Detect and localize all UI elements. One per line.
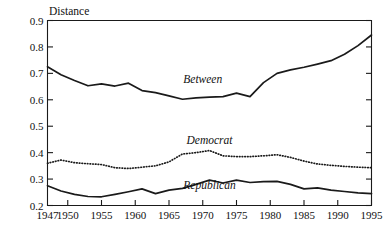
series-line-between (48, 35, 372, 99)
x-tick-label: 1995 (361, 209, 384, 221)
y-tick-label: 0.4 (30, 147, 44, 159)
x-tick-label: 1950 (57, 209, 80, 221)
x-axis-tick-labels: 1947195019551960196519701975198019851990… (37, 209, 384, 221)
x-tick-label: 1955 (91, 209, 114, 221)
plot-frame (48, 21, 372, 206)
y-tick-label: 0.5 (30, 120, 44, 132)
y-axis-ticks (48, 21, 372, 206)
distance-line-chart: 0.20.30.40.50.60.70.80.9 194719501955196… (0, 0, 390, 237)
y-axis-title: Distance (49, 5, 89, 17)
y-tick-label: 0.8 (30, 41, 44, 53)
y-tick-label: 0.3 (30, 173, 44, 185)
series-label-democrat: Democrat (186, 134, 234, 146)
y-tick-label: 0.6 (30, 94, 44, 106)
x-tick-label: 1965 (158, 209, 181, 221)
series-line-democrat (48, 151, 372, 169)
x-tick-label: 1985 (293, 209, 316, 221)
axis-frame (48, 21, 372, 206)
x-tick-label: 1960 (124, 209, 147, 221)
x-tick-label: 1980 (259, 209, 282, 221)
series-label-between: Between (183, 73, 222, 85)
x-tick-label: 1975 (226, 209, 249, 221)
y-tick-label: 0.9 (30, 15, 44, 27)
x-tick-label: 1947 (37, 209, 60, 221)
y-tick-label: 0.7 (30, 67, 44, 79)
chart-container: 0.20.30.40.50.60.70.80.9 194719501955196… (0, 0, 390, 237)
series-label-republican: Republican (182, 179, 236, 192)
x-tick-label: 1990 (327, 209, 350, 221)
y-axis-tick-labels: 0.20.30.40.50.60.70.80.9 (30, 15, 44, 212)
x-tick-label: 1970 (192, 209, 215, 221)
series-lines (48, 35, 372, 197)
series-annotations: BetweenDemocratRepublican (182, 73, 236, 193)
x-axis-ticks (68, 200, 372, 206)
